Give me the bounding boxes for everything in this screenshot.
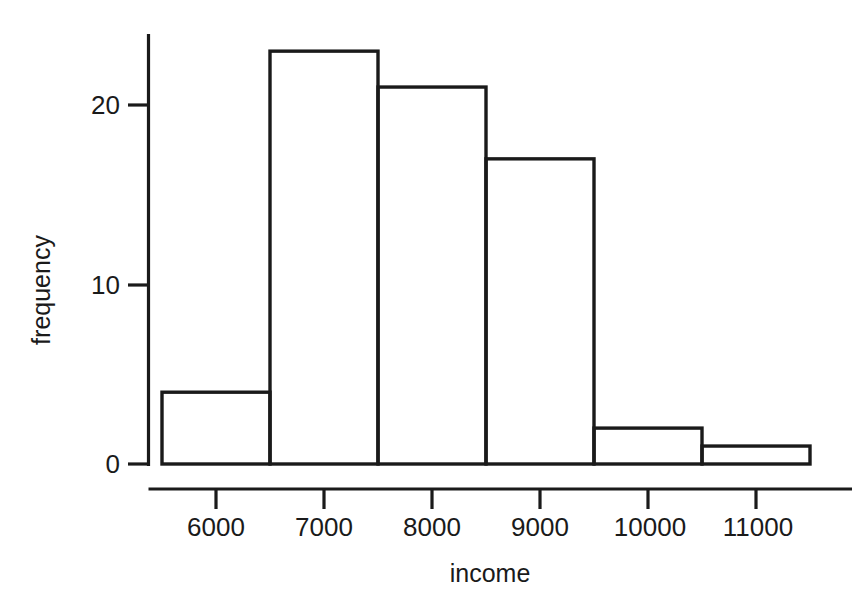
- x-axis-tick-label-7000: 7000: [295, 512, 353, 542]
- y-axis-tick-label-10: 10: [91, 270, 120, 300]
- histogram-bars-group: [162, 51, 810, 464]
- x-axis-tick-label-6000: 6000: [187, 512, 245, 542]
- x-axis-tick-label-8000: 8000: [403, 512, 461, 542]
- histogram-bar: [486, 159, 594, 464]
- histogram-bar: [270, 51, 378, 464]
- histogram-bar: [594, 428, 702, 464]
- histogram-bar: [702, 446, 810, 464]
- x-axis-tick-label-9000: 9000: [511, 512, 569, 542]
- x-axis-tick-label-11000: 11000: [723, 512, 793, 542]
- histogram-chart-canvas: 20 10 0 frequency 6000 7000 8000 9000 10…: [0, 0, 858, 601]
- histogram-figure: 20 10 0 frequency 6000 7000 8000 9000 10…: [0, 0, 858, 601]
- histogram-bar: [378, 87, 486, 464]
- y-axis-tick-label-20: 20: [91, 90, 120, 120]
- x-axis-title: income: [450, 559, 531, 587]
- y-axis-tick-label-0: 0: [106, 449, 120, 479]
- y-axis-title: frequency: [27, 235, 55, 345]
- x-axis-tick-label-10000: 10000: [614, 512, 686, 542]
- histogram-bar: [162, 392, 270, 464]
